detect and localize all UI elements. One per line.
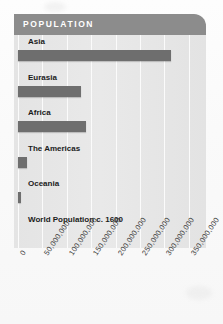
population-bar-chart: POPULATION AsiaEurasiaAfricaThe Americas…: [14, 14, 206, 248]
bar: [18, 157, 27, 168]
bar: [18, 121, 86, 132]
bar-row: Oceania: [14, 177, 206, 213]
x-axis-tick-labels: 050,000,000100,000,000150,000,000200,000…: [14, 248, 223, 324]
chart-header-band: POPULATION: [14, 14, 206, 35]
plot-area: AsiaEurasiaAfricaThe AmericasOceaniaWorl…: [14, 35, 206, 248]
category-label: Oceania: [28, 179, 59, 188]
bar: [18, 192, 21, 203]
category-label: Asia: [28, 37, 45, 46]
bar: [18, 86, 81, 97]
bar-row: Asia: [14, 35, 206, 71]
category-label: World Population c. 1600: [28, 215, 123, 224]
bar: [18, 50, 171, 61]
bar-row: Eurasia: [14, 71, 206, 107]
category-label: The Americas: [28, 144, 80, 153]
chart-title: POPULATION: [23, 19, 94, 29]
category-label: Africa: [28, 108, 51, 117]
category-label: Eurasia: [28, 73, 57, 82]
bar-row: The Americas: [14, 142, 206, 178]
x-tick-label: 0: [18, 248, 28, 257]
bar-row: Africa: [14, 106, 206, 142]
paper-blotch: [44, 2, 66, 12]
